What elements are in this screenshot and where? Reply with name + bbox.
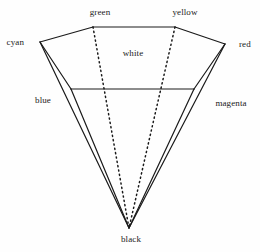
solid-edge-5 [194,44,225,89]
solid-edge-9 [129,89,194,228]
label-red: red [239,39,251,49]
solid-edge-0 [40,27,93,42]
label-white: white [123,48,144,58]
label-black: black [121,234,141,244]
solid-edge-7 [71,89,129,228]
label-yellow: yellow [172,7,197,17]
solid-edge-6 [40,42,129,228]
label-cyan: cyan [0,37,24,47]
label-blue: blue [35,95,51,105]
hsv-hexcone-diagram: green yellow cyan red white blue magenta… [0,0,260,252]
label-magenta: magenta [215,98,246,108]
label-green: green [90,7,111,17]
solid-edge-2 [175,27,225,44]
solid-edge-8 [129,44,225,228]
diagram-canvas [0,0,260,252]
solid-edge-3 [40,42,71,89]
